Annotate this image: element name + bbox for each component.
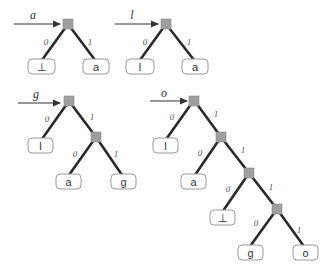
edge-label-0: 0: [226, 184, 231, 194]
input-label: l: [130, 8, 134, 22]
leaf-label: a: [192, 61, 199, 73]
leaf-label: g: [247, 247, 253, 259]
leaf-label: ⊥: [37, 61, 47, 73]
leaf-label: o: [302, 247, 308, 259]
internal-node: [244, 168, 254, 178]
internal-node: [64, 96, 74, 106]
edge-label-0: 0: [198, 148, 203, 158]
edge-label-1: 1: [88, 37, 93, 47]
edge-label-0: 0: [143, 37, 148, 47]
internal-node: [272, 204, 282, 214]
input-label: g: [33, 87, 39, 101]
tree-4: o 0 1 0 1 0 1 0 1 l a ⊥ g o: [150, 86, 318, 260]
tree-1: a 0 1 ⊥ a: [14, 8, 109, 74]
leaf-label: ⊥: [218, 212, 228, 224]
tree-3: g 0 1 0 1 l a g: [18, 87, 136, 189]
input-label: a: [30, 8, 36, 22]
edge-label-0: 0: [254, 218, 259, 228]
input-label: o: [161, 86, 167, 100]
edge-label-0: 0: [44, 37, 49, 47]
leaf-label: l: [39, 140, 41, 152]
tree-2: l 0 1 l a: [115, 8, 208, 74]
edge-label-1: 1: [114, 149, 119, 159]
edge-label-1: 1: [90, 112, 95, 122]
edge-label-1: 1: [187, 37, 192, 47]
leaf-label: g: [120, 176, 126, 188]
internal-node: [63, 19, 73, 29]
internal-node: [91, 132, 101, 142]
leaf-label: a: [65, 176, 72, 188]
internal-node: [216, 132, 226, 142]
edge-label-0: 0: [170, 112, 175, 122]
edge-label-1: 1: [241, 145, 246, 155]
edge-label-1: 1: [297, 225, 302, 235]
leaf-label: a: [190, 176, 197, 188]
edge-label-1: 1: [214, 109, 219, 119]
edge-label-0: 0: [73, 149, 78, 159]
leaf-label: l: [139, 61, 141, 73]
edge-label-0: 0: [45, 114, 50, 124]
edge-label-1: 1: [269, 182, 274, 192]
trie-diagram: a 0 1 ⊥ a l 0 1 l a g 0 1 0 1: [0, 0, 335, 268]
internal-node: [189, 96, 199, 106]
internal-node: [161, 19, 171, 29]
leaf-label: l: [164, 140, 166, 152]
leaf-label: a: [93, 61, 100, 73]
